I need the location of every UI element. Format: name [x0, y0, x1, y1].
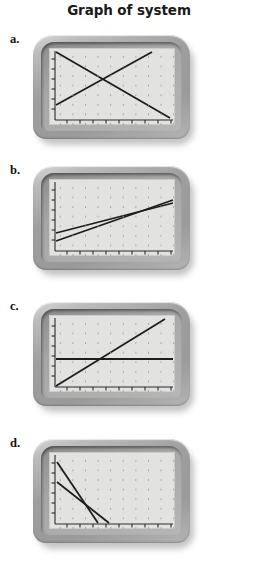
- plot-line-1: [56, 203, 173, 233]
- graph-svg-b: [49, 179, 175, 256]
- axes-c: [52, 318, 174, 391]
- plot-line-1: [57, 462, 98, 523]
- plot-line-2: [57, 482, 109, 523]
- graph-svg-c: [49, 315, 175, 392]
- axes-a: [52, 51, 174, 124]
- item-label-c: c.: [10, 299, 19, 314]
- graph-svg-d: [49, 452, 175, 529]
- plot-line-2: [56, 319, 165, 386]
- calculator-graph-c: [33, 302, 190, 406]
- plot-line-2: [56, 200, 173, 241]
- plot-line-1: [56, 52, 170, 118]
- calculator-screen-c: [49, 315, 175, 392]
- calculator-graph-b: [33, 166, 190, 270]
- calculator-screen-d: [49, 452, 175, 529]
- item-label-a: a.: [10, 32, 19, 47]
- calculator-graph-a: [33, 35, 190, 139]
- item-label-b: b.: [10, 163, 20, 178]
- calculator-graph-d: [33, 439, 190, 543]
- graph-svg-a: [49, 48, 175, 125]
- calculator-screen-b: [49, 179, 175, 256]
- page-title: Graph of system: [0, 2, 258, 18]
- calculator-screen-a: [49, 48, 175, 125]
- item-label-d: d.: [10, 436, 20, 451]
